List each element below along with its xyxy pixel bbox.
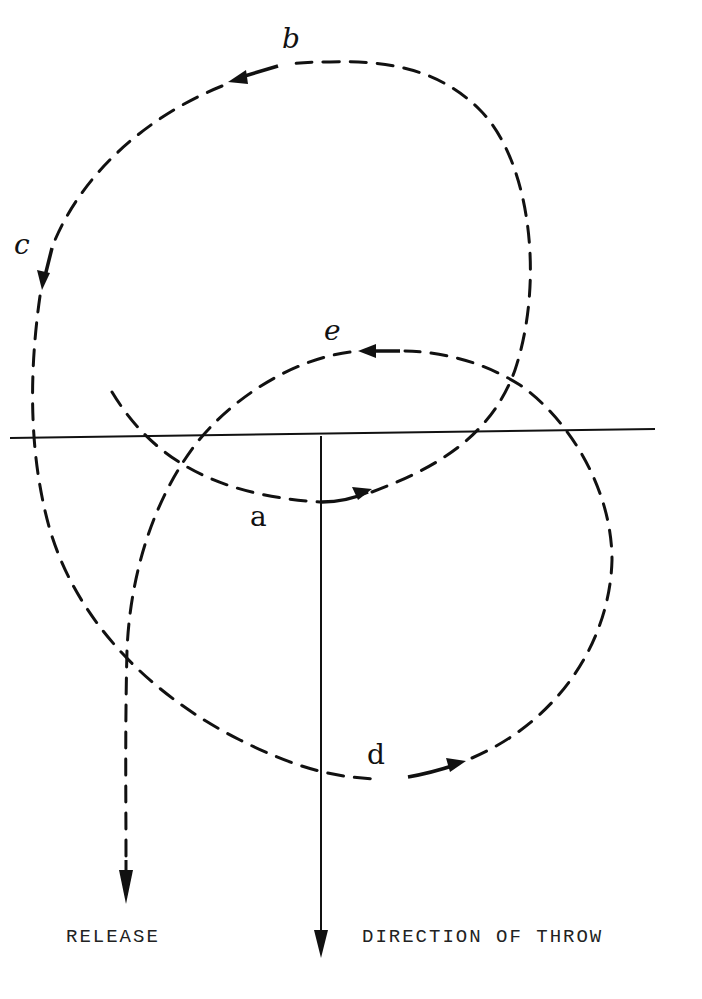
path-segment-b-to-c bbox=[55, 86, 222, 240]
path-segment-start-to-a bbox=[112, 392, 320, 502]
horizontal-reference-line bbox=[10, 429, 655, 438]
label-b: b bbox=[282, 22, 300, 55]
label-d: d bbox=[367, 738, 385, 771]
path-segment-e-to-release bbox=[126, 352, 350, 860]
release-caption: RELEASE bbox=[66, 926, 160, 948]
path-segment-a-to-b bbox=[290, 62, 530, 492]
throw-path-diagram bbox=[0, 0, 702, 999]
direction-arrowhead-icon bbox=[314, 930, 328, 958]
arrow-d-icon bbox=[446, 758, 466, 772]
arrow-d-shaft bbox=[408, 765, 455, 777]
path-segment-c-to-d bbox=[33, 296, 380, 779]
arrow-c-icon bbox=[37, 270, 50, 290]
arrow-b-icon bbox=[228, 70, 248, 84]
release-arrowhead-icon bbox=[119, 870, 133, 904]
label-c: c bbox=[14, 228, 30, 261]
arrow-e-icon bbox=[358, 344, 376, 358]
direction-of-throw-caption: DIRECTION OF THROW bbox=[362, 926, 603, 948]
label-a: a bbox=[250, 500, 267, 533]
path-segment-d-to-e bbox=[405, 351, 612, 758]
label-e: e bbox=[324, 314, 341, 347]
